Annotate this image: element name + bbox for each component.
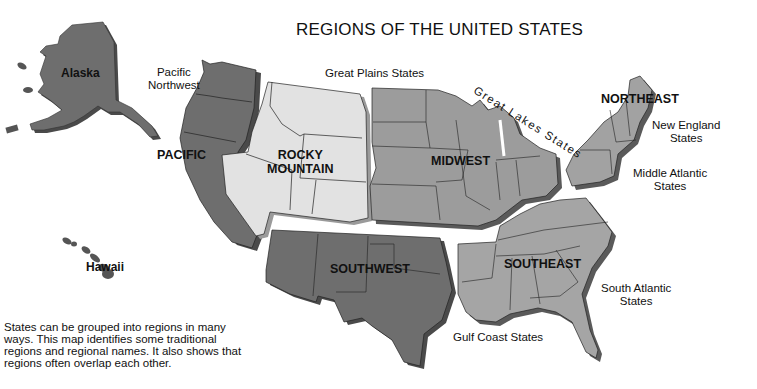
southwest-region: [266, 230, 456, 369]
label-new-england-line1: New England: [652, 119, 720, 132]
label-middle-atlantic: Middle Atlantic States: [633, 167, 707, 193]
label-gulf-coast: Gulf Coast States: [453, 331, 543, 344]
map-title: REGIONS OF THE UNITED STATES: [296, 20, 583, 40]
map-caption-note: States can be grouped into regions in ma…: [4, 321, 244, 369]
region-label-rocky-mountain-line2: MOUNTAIN: [267, 162, 333, 176]
label-pacific-northwest-line1: Pacific: [148, 66, 200, 79]
region-label-rocky-mountain: ROCKY MOUNTAIN: [267, 148, 333, 177]
label-south-atlantic-line2: States: [601, 295, 671, 308]
region-label-midwest: MIDWEST: [431, 154, 490, 168]
label-middle-atlantic-line2: States: [633, 180, 707, 193]
alaska-shape: [5, 22, 161, 140]
label-great-plains: Great Plains States: [325, 67, 424, 80]
region-label-southeast: SOUTHEAST: [504, 257, 581, 271]
label-new-england-line2: States: [652, 132, 720, 145]
state-label-alaska: Alaska: [61, 67, 100, 81]
region-label-pacific: PACIFIC: [157, 148, 206, 162]
region-label-rocky-mountain-line1: ROCKY: [267, 148, 333, 162]
label-pacific-northwest: Pacific Northwest: [148, 66, 200, 92]
label-pacific-northwest-line2: Northwest: [148, 79, 200, 92]
region-label-northeast: NORTHEAST: [601, 92, 679, 106]
region-label-southwest: SOUTHWEST: [330, 262, 410, 276]
label-middle-atlantic-line1: Middle Atlantic: [633, 167, 707, 180]
state-label-hawaii: Hawaii: [86, 261, 124, 275]
label-south-atlantic: South Atlantic States: [601, 282, 671, 308]
label-new-england: New England States: [652, 119, 720, 145]
label-south-atlantic-line1: South Atlantic: [601, 282, 671, 295]
